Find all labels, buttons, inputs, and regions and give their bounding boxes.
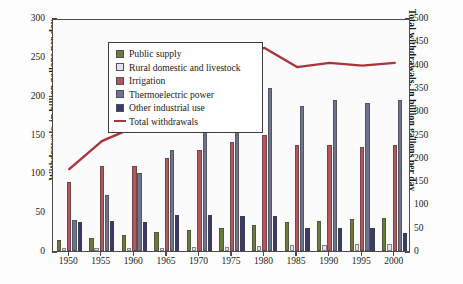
x-tick-label: 2000	[374, 256, 414, 266]
left-tick-label: 150	[5, 130, 45, 140]
legend-item-label: Thermoelectric power	[129, 89, 214, 100]
legend-item: Total withdrawals	[116, 116, 256, 127]
right-tick-label: 250	[414, 130, 454, 140]
left-tick-label: 200	[5, 91, 45, 101]
left-tick-label: 0	[5, 246, 45, 256]
legend-line-swatch-icon	[114, 120, 126, 122]
legend-item: Thermoelectric power	[116, 89, 256, 100]
legend-item-label: Irrigation	[129, 75, 165, 86]
right-tick-label: 200	[414, 153, 454, 163]
right-tick-label: 50	[414, 223, 454, 233]
left-tick-label: 300	[5, 13, 45, 23]
right-tick-label: 150	[414, 176, 454, 186]
right-tick-label: 350	[414, 83, 454, 93]
right-tick-label: 450	[414, 36, 454, 46]
right-tick-label: 300	[414, 106, 454, 116]
legend-color-swatch-icon	[116, 63, 124, 71]
right-tick-label: 100	[414, 199, 454, 209]
right-tick-label: 500	[414, 13, 454, 23]
legend-item-label: Total withdrawals	[129, 116, 198, 127]
plot-area: Public supplyRural domestic and livestoc…	[52, 19, 410, 252]
right-tick-label: 0	[414, 246, 454, 256]
legend-color-swatch-icon	[116, 104, 124, 112]
legend-item: Rural domestic and livestock	[116, 62, 256, 73]
right-tick-label: 400	[414, 60, 454, 70]
left-tick-label: 250	[5, 52, 45, 62]
left-tick-label: 100	[5, 168, 45, 178]
legend-color-swatch-icon	[116, 77, 124, 85]
legend-item: Other industrial use	[116, 102, 256, 113]
legend-item: Public supply	[116, 48, 256, 59]
left-tick-label: 50	[5, 207, 45, 217]
legend-color-swatch-icon	[116, 90, 124, 98]
chart-legend: Public supplyRural domestic and livestoc…	[108, 42, 263, 133]
legend-color-swatch-icon	[116, 50, 124, 58]
legend-item: Irrigation	[116, 75, 256, 86]
legend-item-label: Public supply	[129, 48, 182, 59]
figure-water-withdrawals: Withdrawals, in billion gallons per day …	[0, 0, 463, 284]
legend-item-label: Rural domestic and livestock	[129, 62, 241, 73]
legend-item-label: Other industrial use	[129, 102, 205, 113]
